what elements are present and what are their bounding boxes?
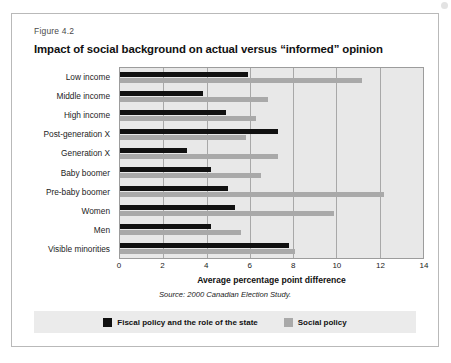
figure-frame: Figure 4.2 Impact of social background o… [11, 13, 439, 347]
bar-group [120, 239, 423, 258]
bar [120, 135, 246, 140]
bar [120, 249, 295, 254]
bar-group [120, 163, 423, 182]
x-tick-label: 14 [420, 261, 429, 270]
category-label: Generation X [36, 144, 115, 163]
category-label: Post-generation X [36, 125, 115, 144]
x-tick-label: 10 [332, 261, 341, 270]
legend-label: Fiscal policy and the role of the state [117, 318, 257, 327]
bar-group [120, 220, 423, 239]
legend-swatch-social-icon [284, 318, 293, 327]
legend-item: Fiscal policy and the role of the state [103, 318, 257, 327]
category-label: Men [36, 221, 115, 240]
bar [120, 78, 362, 83]
bar-group [120, 68, 423, 87]
bar [120, 116, 256, 121]
bar [120, 91, 203, 96]
bar-group [120, 201, 423, 220]
bar [120, 97, 268, 102]
category-axis: Low incomeMiddle incomeHigh incomePost-g… [36, 67, 115, 259]
bar-group [120, 125, 423, 144]
legend-item: Social policy [284, 318, 347, 327]
category-label: Women [36, 201, 115, 220]
page-title: Impact of social background on actual ve… [34, 43, 383, 55]
source-note: Source: 2000 Canadian Election Study. [12, 290, 438, 299]
bar [120, 167, 211, 172]
bar [120, 129, 278, 134]
page-corner-mark [441, 2, 448, 9]
bar [120, 243, 289, 248]
bar [120, 186, 228, 191]
bars-layer [120, 68, 423, 258]
x-tick-label: 2 [160, 261, 164, 270]
category-label: Low income [36, 67, 115, 86]
category-label: Visible minorities [36, 240, 115, 259]
category-label: Middle income [36, 86, 115, 105]
value-axis: 02468101214 [119, 261, 424, 275]
plot-area [119, 67, 424, 259]
bar-group [120, 87, 423, 106]
chart-legend: Fiscal policy and the role of the stateS… [34, 311, 416, 333]
bar [120, 72, 248, 77]
legend-swatch-fiscal-icon [103, 318, 112, 327]
bar [120, 154, 278, 159]
x-tick-label: 6 [247, 261, 251, 270]
x-tick-label: 0 [117, 261, 121, 270]
category-label: High income [36, 105, 115, 124]
bar [120, 148, 187, 153]
bar [120, 230, 241, 235]
category-label: Baby boomer [36, 163, 115, 182]
category-label: Pre-baby boomer [36, 182, 115, 201]
figure-number: Figure 4.2 [34, 26, 74, 36]
x-tick-label: 8 [291, 261, 295, 270]
bar [120, 211, 334, 216]
x-tick-label: 4 [204, 261, 208, 270]
bar [120, 192, 384, 197]
legend-label: Social policy [298, 318, 347, 327]
bar-chart: Low incomeMiddle incomeHigh incomePost-g… [36, 65, 426, 275]
bar [120, 205, 235, 210]
bar-group [120, 144, 423, 163]
bar [120, 173, 261, 178]
bar-group [120, 106, 423, 125]
gridline [423, 68, 424, 258]
bar [120, 110, 226, 115]
bar-group [120, 182, 423, 201]
x-axis-title: Average percentage point difference [119, 275, 424, 285]
x-tick-label: 12 [376, 261, 385, 270]
bar [120, 224, 211, 229]
